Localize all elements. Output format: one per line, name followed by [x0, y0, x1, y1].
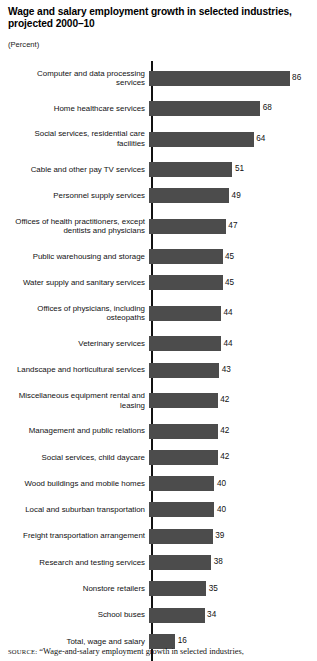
- bar-category-label: Computer and data processingservices: [0, 69, 149, 88]
- bar-value-label: 43: [222, 366, 231, 374]
- bar-category-label: Offices of physicians, includingosteopat…: [0, 304, 149, 323]
- bar-track: 42: [149, 418, 317, 444]
- bar-value-label: 86: [292, 74, 301, 82]
- table-row: Public warehousing and storage45: [0, 243, 317, 269]
- bar-category-label: Cable and other pay TV services: [0, 165, 149, 175]
- bar-track: 39: [149, 523, 317, 549]
- bar-track: 44: [149, 331, 317, 357]
- bar-value-label: 44: [223, 340, 232, 348]
- bar-value-label: 42: [220, 427, 229, 435]
- bar-category-label: Total, wage and salary: [0, 637, 149, 647]
- bar: [149, 219, 226, 234]
- bar-value-label: 38: [214, 558, 223, 566]
- bar-category-label: Social services, child daycare: [0, 453, 149, 463]
- bar-category-label: School buses: [0, 610, 149, 620]
- bar: [149, 363, 219, 378]
- table-row: Water supply and sanitary services45: [0, 270, 317, 296]
- source-text: “Wage-and-salary employment growth in se…: [39, 647, 243, 656]
- bar-category-label: Freight transportation arrangement: [0, 531, 149, 541]
- table-row: Research and testing services38: [0, 549, 317, 575]
- bar-value-label: 68: [263, 104, 272, 112]
- bar-category-label: Research and testing services: [0, 558, 149, 568]
- table-row: Veterinary services44: [0, 331, 317, 357]
- bar-track: 45: [149, 270, 317, 296]
- table-row: Offices of physicians, includingosteopat…: [0, 296, 317, 331]
- bar-value-label: 35: [209, 585, 218, 593]
- bar-track: 64: [149, 122, 317, 157]
- bar-value-label: 16: [178, 637, 187, 645]
- table-row: Management and public relations42: [0, 418, 317, 444]
- bar-category-label: Home healthcare services: [0, 104, 149, 114]
- bar-category-label: Personnel supply services: [0, 191, 149, 201]
- bar-value-label: 45: [225, 279, 234, 287]
- table-row: Miscellaneous equipment rental andleasin…: [0, 383, 317, 418]
- bar-value-label: 44: [223, 309, 232, 317]
- bar: [149, 424, 218, 439]
- bar-track: 38: [149, 549, 317, 575]
- bar: [149, 188, 229, 203]
- table-row: Personnel supply services49: [0, 183, 317, 209]
- bar-value-label: 42: [220, 453, 229, 461]
- bar: [149, 336, 221, 351]
- table-row: Offices of health practitioners, exceptd…: [0, 209, 317, 244]
- bar-value-label: 47: [228, 222, 237, 230]
- bar: [149, 608, 205, 623]
- bar-value-label: 42: [220, 396, 229, 404]
- table-row: Social services, child daycare42: [0, 444, 317, 470]
- bar-track: 45: [149, 243, 317, 269]
- table-row: Local and suburban transportation40: [0, 497, 317, 523]
- table-row: Home healthcare services68: [0, 95, 317, 121]
- bar-category-label: Offices of health practitioners, exceptd…: [0, 217, 149, 236]
- bar-chart: Computer and data processingservices86Ho…: [0, 61, 317, 655]
- table-row: Freight transportation arrangement39: [0, 523, 317, 549]
- bar-value-label: 64: [256, 135, 265, 143]
- bar: [149, 132, 254, 147]
- bar-track: 42: [149, 383, 317, 418]
- bar: [149, 393, 218, 408]
- bar: [149, 476, 214, 491]
- bar-value-label: 40: [217, 506, 226, 514]
- bar-value-label: 34: [207, 611, 216, 619]
- source-note: source: “Wage-and-salary employment grow…: [8, 647, 311, 657]
- bar-category-label: Wood buildings and mobile homes: [0, 479, 149, 489]
- bar: [149, 101, 260, 116]
- table-row: School buses34: [0, 602, 317, 628]
- bar-category-label: Miscellaneous equipment rental andleasin…: [0, 391, 149, 410]
- bar-category-label: Landscape and horticultural services: [0, 365, 149, 375]
- bar: [149, 581, 206, 596]
- bar: [149, 249, 223, 264]
- bar-track: 40: [149, 470, 317, 496]
- bar-category-label: Local and suburban transportation: [0, 505, 149, 515]
- bar: [149, 162, 232, 177]
- bar-rows: Computer and data processingservices86Ho…: [0, 61, 317, 655]
- bar-track: 86: [149, 61, 317, 96]
- bar-track: 34: [149, 602, 317, 628]
- page-title: Wage and salary employment growth in sel…: [8, 6, 309, 31]
- bar-category-label: Management and public relations: [0, 426, 149, 436]
- chart-header: Wage and salary employment growth in sel…: [0, 0, 317, 49]
- bar-category-label: Social services, residential carefacilit…: [0, 129, 149, 148]
- bar: [149, 529, 213, 544]
- bar-value-label: 45: [225, 253, 234, 261]
- bar-track: 35: [149, 576, 317, 602]
- bar-category-label: Public warehousing and storage: [0, 252, 149, 262]
- bar: [149, 555, 211, 570]
- bar-track: 43: [149, 357, 317, 383]
- bar-track: 40: [149, 497, 317, 523]
- units-label: (Percent): [8, 40, 309, 49]
- bar-track: 49: [149, 183, 317, 209]
- bar-track: 47: [149, 209, 317, 244]
- source-kicker: source:: [8, 648, 37, 655]
- bar-track: 44: [149, 296, 317, 331]
- bar-value-label: 51: [235, 165, 244, 173]
- bar: [149, 275, 223, 290]
- bar-value-label: 40: [217, 480, 226, 488]
- table-row: Wood buildings and mobile homes40: [0, 470, 317, 496]
- table-row: Landscape and horticultural services43: [0, 357, 317, 383]
- bar: [149, 502, 214, 517]
- bar-track: 42: [149, 444, 317, 470]
- bar: [149, 71, 290, 86]
- bar-value-label: 39: [215, 532, 224, 540]
- bar-track: 68: [149, 95, 317, 121]
- bar-category-label: Water supply and sanitary services: [0, 278, 149, 288]
